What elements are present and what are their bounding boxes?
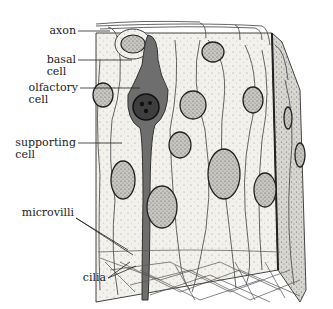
label-cilia-text: cilia: [83, 271, 106, 284]
label-supporting-cell-line2: cell: [15, 149, 76, 161]
label-supporting-cell: supporting cell: [15, 137, 76, 161]
label-olfactory-cell-line2: cell: [29, 94, 78, 106]
label-olfactory-cell: olfactory cell: [29, 82, 78, 106]
label-basal-cell: basal cell: [47, 54, 76, 78]
label-microvilli: microvilli: [22, 207, 74, 219]
label-cilia: cilia: [83, 272, 106, 284]
label-microvilli-text: microvilli: [22, 206, 74, 219]
label-axon: axon: [50, 25, 76, 37]
label-axon-text: axon: [50, 24, 76, 37]
olfactory-epithelium-diagram: axon basal cell olfactory cell supportin…: [0, 0, 333, 309]
label-basal-cell-line2: cell: [47, 66, 76, 78]
